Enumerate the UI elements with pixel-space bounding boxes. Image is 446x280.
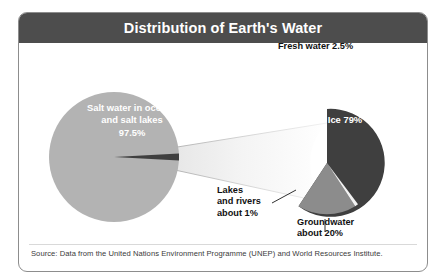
lakes-rivers-callout-label: Lakes and rivers about 1%: [217, 185, 261, 219]
ice-pie-label: Ice 79%: [287, 114, 403, 126]
figure-frame: Distribution of Earth's Water: [18, 12, 428, 272]
salt-water-label-line1: Salt water in oceans: [87, 102, 177, 113]
groundwater-callout-label: Groundwater about 20%: [297, 217, 354, 240]
footer-divider: [29, 244, 417, 245]
groundwater-label-line1: Groundwater: [297, 217, 354, 227]
source-note: Source: Data from the United Nations Env…: [31, 249, 417, 258]
lakes-label-line2: and rivers: [217, 196, 261, 206]
groundwater-label-line2: about 20%: [297, 228, 343, 238]
salt-water-label-value: 97.5%: [119, 127, 146, 138]
figure-header-band: Distribution of Earth's Water: [19, 13, 427, 43]
salt-water-pie-label: Salt water in oceans and salt lakes 97.5…: [63, 102, 201, 139]
lakes-label-line1: Lakes: [217, 185, 243, 195]
page-title: Distribution of Earth's Water: [124, 20, 322, 36]
fresh-water-callout-label: Fresh water 2.5%: [278, 41, 353, 52]
salt-water-label-line2: and salt lakes: [101, 114, 163, 125]
infographic-figure: Distribution of Earth's Water: [0, 0, 446, 280]
lakes-label-line3: about 1%: [217, 208, 258, 218]
